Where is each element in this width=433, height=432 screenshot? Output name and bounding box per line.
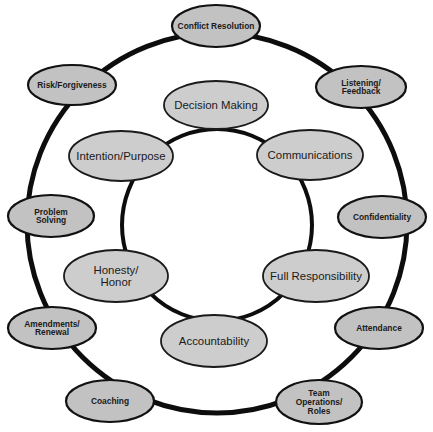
outer-node-label: Roles — [308, 406, 331, 416]
outer-node-label: Conflict Resolution — [178, 21, 255, 31]
inner-node-label: Intention/Purpose — [76, 150, 165, 162]
outer-node-amendments-renewal: Amendments/Renewal — [8, 307, 96, 349]
outer-node-label: Feedback — [342, 86, 381, 96]
inner-node-label: Accountability — [179, 335, 250, 347]
inner-node-label: Communications — [268, 149, 353, 161]
outer-node-conflict-resolution: Conflict Resolution — [172, 5, 260, 47]
outer-node-listening-feedback: Listening/Feedback — [316, 66, 406, 108]
outer-node-label: Solving — [36, 215, 66, 225]
inner-node-decision-making: Decision Making — [164, 81, 268, 129]
values-ring-diagram: Conflict ResolutionListening/FeedbackCon… — [0, 0, 433, 432]
outer-node-label: Coaching — [91, 396, 129, 406]
inner-node-label: Honesty/ — [94, 264, 140, 276]
inner-node-full-responsibility: Full Responsibility — [263, 250, 369, 302]
inner-node-communications: Communications — [257, 130, 363, 180]
inner-node-honesty-honor: Honesty/Honor — [64, 250, 168, 302]
outer-node-label: Confidentiality — [353, 212, 412, 222]
outer-node-team-operations-roles: TeamOperations/Roles — [276, 380, 362, 424]
outer-node-coaching: Coaching — [66, 380, 154, 422]
inner-node-label: Full Responsibility — [270, 270, 362, 282]
outer-node-label: Attendance — [356, 323, 402, 333]
outer-node-confidentiality: Confidentiality — [338, 196, 426, 238]
outer-node-problem-solving: ProblemSolving — [8, 195, 94, 237]
inner-node-label: Decision Making — [174, 99, 258, 111]
inner-node-accountability: Accountability — [161, 315, 267, 367]
outer-node-label: Renewal — [35, 327, 69, 337]
outer-node-label: Risk/Forgiveness — [37, 80, 107, 90]
outer-node-risk-forgiveness: Risk/Forgiveness — [28, 65, 116, 105]
outer-node-attendance: Attendance — [335, 307, 423, 349]
inner-node-label: Honor — [100, 276, 131, 288]
inner-node-intention-purpose: Intention/Purpose — [69, 131, 173, 181]
